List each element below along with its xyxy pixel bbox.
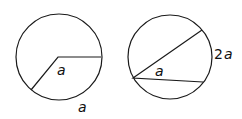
left-central-angle-radii: [31, 57, 101, 90]
left-circle-figure: a a: [16, 14, 102, 115]
right-arc-label-var: a: [224, 46, 233, 62]
right-inscribed-angle-chords: [133, 30, 203, 82]
diagram-canvas: a a a 2 a: [0, 0, 242, 119]
right-arc-label-coef: 2: [214, 46, 223, 62]
right-chord-label: a: [155, 63, 164, 79]
left-center-label: a: [57, 62, 66, 78]
right-circle-figure: a 2 a: [128, 15, 233, 99]
left-arc-label: a: [78, 99, 87, 115]
right-circle: [128, 15, 212, 99]
